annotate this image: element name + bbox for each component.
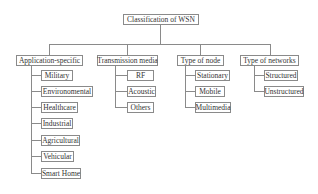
leaf-industrial: Industrial <box>41 118 73 129</box>
connector-app <box>49 44 50 55</box>
trans-tick <box>115 75 127 76</box>
trans-tick <box>115 91 127 92</box>
category-transmission-media: Transmission media <box>97 55 158 66</box>
leaf-healthcare: Healthcare <box>41 102 78 113</box>
leaf-structured: Structured <box>264 70 298 81</box>
leaf-vehicular: Vehicular <box>41 151 74 162</box>
category-type-of-networks: Type of networks <box>240 55 299 66</box>
app-spine <box>31 65 32 174</box>
leaf-mobile: Mobile <box>195 86 225 97</box>
leaf-agricultural: Agricultural <box>41 135 80 146</box>
leaf-acoustic: Acoustic <box>127 86 156 97</box>
leaf-rf: RF <box>127 70 154 81</box>
level1-bus <box>49 44 271 45</box>
leaf-stationary: Stationary <box>195 70 230 81</box>
app-tick <box>31 107 41 108</box>
node-spine <box>185 65 186 108</box>
app-tick <box>31 91 41 92</box>
net-tick <box>254 91 264 92</box>
connector-trans <box>127 44 128 55</box>
app-tick <box>31 140 41 141</box>
node-tick <box>185 91 195 92</box>
leaf-smart-home: Smart Home <box>41 168 81 179</box>
app-tick <box>31 173 41 174</box>
connector-node <box>200 44 201 55</box>
category-type-of-node: Type of node <box>177 55 224 66</box>
node-tick <box>185 75 195 76</box>
node-tick <box>185 107 195 108</box>
root-node: Classification of WSN <box>123 14 199 25</box>
leaf-unstructured: Unstructured <box>264 86 304 97</box>
leaf-multimedia: Multimedia <box>195 102 231 113</box>
trans-tick <box>115 107 127 108</box>
leaf-military: Military <box>41 70 73 81</box>
app-tick <box>31 75 41 76</box>
app-tick <box>31 156 41 157</box>
connector-net <box>270 44 271 55</box>
category-application-specific: Application-specific <box>16 55 83 66</box>
leaf-environmental: Environomental <box>41 86 93 97</box>
app-tick <box>31 123 41 124</box>
leaf-others: Others <box>127 102 154 113</box>
trans-spine <box>115 65 116 108</box>
net-tick <box>254 75 264 76</box>
root-connector <box>160 24 161 44</box>
net-spine <box>254 65 255 92</box>
